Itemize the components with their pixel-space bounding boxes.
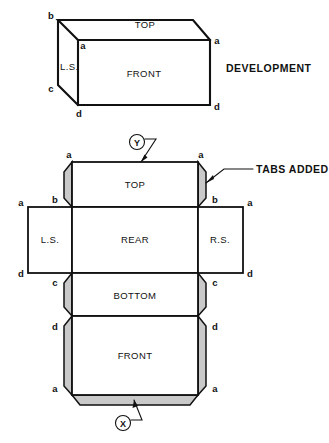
box-vertex-a-front-top-right: a: [214, 35, 220, 46]
box-vertex-d-front-bottom-right: d: [214, 101, 220, 112]
dev-vertex-front-tab-left-d: d: [52, 321, 58, 332]
x-marker-label: X: [120, 419, 126, 429]
dev-vertex-mid-right-d: d: [247, 268, 253, 279]
box-label-top: TOP: [135, 19, 156, 30]
development-title: DEVELOPMENT: [226, 62, 312, 74]
dev-vertex-mid-left-d: d: [18, 268, 24, 279]
dev-vertex-front-tab-right-a: a: [212, 383, 218, 394]
box-vertex-a-front-top-left: a: [80, 40, 86, 51]
panel-label-top: TOP: [125, 179, 146, 190]
box-label-front: FRONT: [127, 68, 162, 79]
panel-label-front: FRONT: [118, 350, 153, 361]
dev-vertex-bottom-tab-right-c: c: [212, 277, 217, 288]
dev-vertex-top-left-a: a: [66, 149, 72, 160]
panel-label-left-side: L.S.: [41, 234, 60, 245]
tabs-added-label: TABS ADDED: [256, 163, 329, 175]
dev-vertex-top-tab-left-b: b: [52, 194, 58, 205]
box-vertex-d-front-bottom-left: d: [76, 108, 82, 119]
tab-front-right: [198, 316, 206, 395]
tab-front-left: [64, 316, 72, 395]
dev-vertex-mid-right-a: a: [247, 197, 253, 208]
box-vertex-c: c: [48, 83, 53, 94]
dev-vertex-top-tab-right-b: b: [212, 194, 218, 205]
y-marker-label: Y: [134, 138, 140, 148]
panel-label-bottom: BOTTOM: [114, 290, 157, 301]
dev-vertex-bottom-tab-left-c: c: [52, 277, 57, 288]
panel-label-rear: REAR: [121, 234, 149, 245]
dev-vertex-top-right-a: a: [198, 149, 204, 160]
dev-vertex-front-tab-left-a: a: [52, 383, 58, 394]
box-vertex-b: b: [48, 10, 54, 21]
technical-drawing-box-development: TOP FRONT L.S. b a a c d d DEVELOPMENT T…: [0, 0, 329, 443]
panel-label-right-side: R.S.: [210, 234, 230, 245]
box-label-left-side: L.S.: [60, 61, 79, 72]
dev-vertex-mid-left-a: a: [18, 197, 24, 208]
dev-vertex-front-tab-right-d: d: [212, 321, 218, 332]
